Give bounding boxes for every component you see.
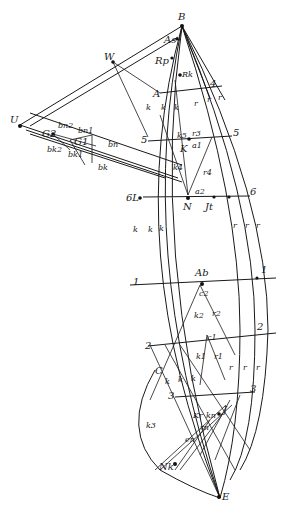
- label-k3: k3: [146, 421, 156, 430]
- label-a1: a1: [192, 141, 202, 150]
- point-N: [186, 196, 190, 200]
- diagram-canvas: B As Rp Rk W U A 4 5 5 K 6L N Jt 6 Ab 1 …: [0, 0, 287, 515]
- label-6L: 6L: [126, 192, 139, 203]
- cross-lines: [130, 86, 276, 397]
- label-bn2: bn2: [58, 121, 73, 130]
- label-bk1: bk1: [68, 150, 83, 159]
- label-kn: kn: [206, 411, 216, 420]
- point-6: [227, 195, 230, 198]
- label-k1: k1: [196, 352, 206, 361]
- label-bn: bn: [108, 140, 118, 149]
- label-r4: r4: [203, 168, 212, 177]
- label-A: A: [152, 88, 160, 99]
- label-k-5: k: [148, 225, 153, 234]
- label-r-7: r: [229, 363, 234, 372]
- label-K: K: [179, 143, 188, 154]
- geometric-diagram: B As Rp Rk W U A 4 5 5 K 6L N Jt 6 Ab 1 …: [0, 0, 287, 515]
- upper-wedge: [20, 26, 182, 182]
- label-k-6: k: [159, 224, 164, 233]
- label-B: B: [177, 11, 185, 22]
- label-W: W: [104, 51, 115, 62]
- label-As: As: [163, 34, 176, 45]
- label-Nk: Nk: [158, 461, 174, 472]
- label-C: C: [155, 365, 163, 376]
- label-r3: r3: [192, 129, 201, 138]
- label-G2: G2: [42, 128, 56, 139]
- label-1-right: 1: [261, 264, 267, 275]
- label-k4: k4: [173, 163, 183, 172]
- label-Kr: Kr: [192, 411, 204, 420]
- label-N: N: [182, 201, 193, 212]
- label-E: E: [221, 491, 230, 502]
- label-1-left: 1: [133, 276, 139, 287]
- label-k-4: k: [133, 225, 138, 234]
- label-U: U: [10, 114, 19, 125]
- point-J: [217, 412, 221, 416]
- label-r-9: r: [256, 363, 261, 372]
- label-k-8: k: [178, 375, 183, 384]
- label-Jt: Jt: [203, 201, 214, 212]
- label-r-1: r: [194, 99, 199, 108]
- label-2-right: 2: [256, 321, 263, 332]
- point-Ab: [200, 282, 204, 286]
- label-r-4: r: [233, 221, 238, 230]
- label-c2: c2: [199, 289, 209, 298]
- label-J: J: [221, 404, 228, 415]
- point-U: [18, 124, 22, 128]
- label-k-1: k: [146, 103, 151, 112]
- label-bk: bk: [98, 163, 108, 172]
- label-bk2: bk2: [47, 145, 62, 154]
- label-rn: rn: [200, 423, 209, 432]
- point-E: [217, 495, 221, 499]
- label-r2: r2: [212, 309, 221, 318]
- label-5-right: 5: [233, 127, 239, 138]
- label-5-left: 5: [141, 134, 147, 145]
- label-r-5: r: [245, 221, 250, 230]
- label-r-6: r: [256, 221, 261, 230]
- point-K: [187, 137, 191, 141]
- label-k5: k5: [177, 131, 187, 140]
- label-a2: a2: [195, 187, 205, 196]
- point-Rp: [170, 56, 173, 59]
- label-Rk: Rk: [181, 70, 193, 79]
- label-bn1: bn1: [78, 126, 93, 135]
- label-k-2: k: [161, 103, 166, 112]
- label-3-right: 3: [250, 383, 256, 394]
- label-4: 4: [209, 78, 216, 89]
- label-3-left: 3: [168, 390, 174, 401]
- label-G1: G1: [74, 136, 88, 147]
- label-r-8: r: [243, 363, 248, 372]
- label-Ab: Ab: [194, 267, 209, 278]
- label-k2: k2: [194, 311, 204, 320]
- label-en: en: [185, 435, 195, 444]
- point-1: [255, 276, 258, 279]
- label-6-right: 6: [250, 186, 257, 197]
- label-k-9: k: [191, 374, 196, 383]
- label-k-3: k: [174, 103, 179, 112]
- label-k-7: k: [165, 377, 170, 386]
- point-B: [180, 24, 184, 28]
- label-2-left: 2: [144, 340, 151, 351]
- label-r1: r1: [214, 352, 223, 361]
- point-Jt: [212, 195, 215, 198]
- label-c1: c1: [207, 333, 217, 342]
- label-Rp: Rp: [154, 55, 170, 66]
